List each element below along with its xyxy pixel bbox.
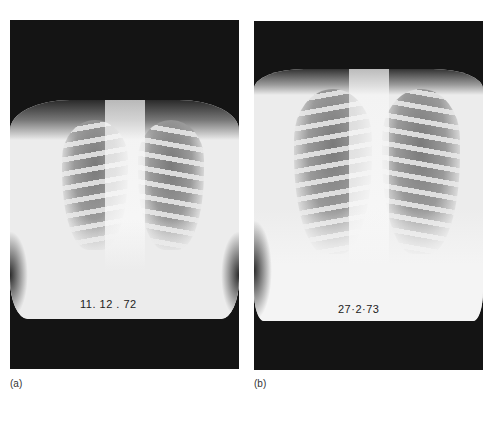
film-date-label: 11. 12 . 72 <box>80 298 137 310</box>
chest-xray-image-b <box>254 69 483 321</box>
film-date-label: 27·2·73 <box>338 303 379 315</box>
edge-shadow <box>254 220 272 321</box>
xray-panel-a: 11. 12 . 72 <box>10 20 239 369</box>
panel-caption-b: (b) <box>254 378 266 389</box>
chest-xray-image-a <box>10 100 239 319</box>
edge-shadow <box>221 231 239 319</box>
xray-panel-b: 27·2·73 <box>254 21 483 370</box>
panel-caption-a: (a) <box>10 378 22 389</box>
edge-shadow <box>10 231 28 319</box>
